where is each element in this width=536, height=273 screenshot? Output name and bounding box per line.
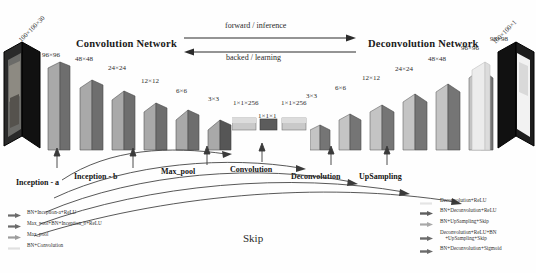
legend-arrow-icon	[420, 210, 434, 217]
legend-right-item-3: Deconvolution+ReLU+BN +UpSampling+Skip	[420, 230, 536, 246]
decoder-dim-2: 12×12	[362, 74, 380, 82]
bottleneck-dim-2: 1×1×256	[281, 99, 306, 107]
decoder-dim-6: 98×98	[490, 35, 508, 43]
decoder-dim-0: 3×3	[306, 92, 317, 100]
decoder-dim-4: 48×48	[428, 55, 446, 63]
legend-right-text-2: BN+UpSampling+Skip	[440, 219, 489, 224]
legend-arrow-icon	[420, 235, 434, 242]
legend-right-text-3: Deconvolution+ReLU+BN +UpSampling+Skip	[440, 230, 497, 241]
legend-arrow-icon	[420, 248, 434, 255]
encoder-dim-2: 24×24	[108, 64, 126, 72]
legend-left-text-2: Max_pool	[27, 232, 48, 237]
bottleneck-dim-0: 1×1×256	[233, 99, 258, 107]
legend-left: BN+Inception-a+ReLU Max_pool+BN+Inceptio…	[8, 210, 158, 254]
legend-left-text-1: Max_pool+BN+Inception_b+ReLU	[27, 221, 102, 226]
legend-left-item-3: BN+Convolution	[8, 243, 158, 254]
encoder-dim-1: 48×48	[75, 55, 93, 63]
legend-right-text-4: BN+Deconvolution+Sigmoid	[440, 246, 501, 251]
legend-swatch-icon	[420, 200, 434, 207]
bottleneck-dim-1: 1×1×1	[258, 112, 276, 120]
legend-arrow-icon	[8, 234, 22, 241]
decoder-dim-3: 24×24	[395, 65, 413, 73]
decoder-dim-5: 96×96	[461, 44, 479, 52]
forward-label: forward / inference	[225, 21, 286, 30]
diagram-canvas: 100×100×30 100×100×1 Convolution Network…	[0, 0, 536, 273]
skip-label: Skip	[243, 232, 263, 244]
decoder-block-98	[470, 52, 494, 152]
decoder-dim-1: 6×6	[335, 84, 346, 92]
encoder-dim-0: 96×96	[42, 51, 60, 59]
legend-left-text-3: BN+Convolution	[27, 243, 63, 248]
legend-swatch-icon	[8, 245, 22, 252]
encoder-dim-5: 3×3	[208, 95, 219, 103]
legend-arrow-icon	[420, 221, 434, 228]
input-image-slab	[2, 36, 46, 151]
legend-arrow-icon	[8, 223, 22, 230]
encoder-dim-3: 12×12	[141, 77, 159, 85]
legend-right-text-0: Deconvolution+ReLU	[440, 198, 486, 203]
legend-right-text-1: BN+Deconvolution+ReLU	[440, 208, 497, 213]
legend-right: Deconvolution+ReLU BN+Deconvolution+ReLU…	[420, 198, 536, 257]
legend-right-item-4: BN+Deconvolution+Sigmoid	[420, 246, 536, 257]
legend-left-text-0: BN+Inception-a+ReLU	[27, 210, 76, 215]
encoder-dim-4: 6×6	[176, 87, 187, 95]
legend-arrow-icon	[8, 212, 22, 219]
